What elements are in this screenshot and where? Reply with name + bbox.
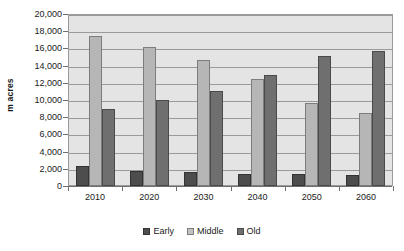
y-axis-tick-label: 10,000	[34, 95, 62, 105]
x-axis-tickmark	[393, 186, 394, 191]
y-axis-tick-label: 0	[57, 181, 62, 191]
x-axis-tickmark	[285, 186, 286, 191]
y-axis-tickmark	[63, 186, 68, 187]
y-axis-tickmark	[63, 169, 68, 170]
x-axis-tick-labels: 201020202030204020502060	[68, 192, 393, 208]
x-axis-tickmark	[339, 186, 340, 191]
plot-area	[68, 14, 393, 186]
y-axis-tick-label: 20,000	[34, 9, 62, 19]
y-axis-tick-label: 4,000	[39, 147, 62, 157]
y-axis-tick-label: 6,000	[39, 129, 62, 139]
legend-swatch-early	[143, 228, 150, 235]
legend-item[interactable]: Middle	[187, 226, 224, 236]
x-axis-tickmark	[68, 186, 69, 191]
x-axis-tickmark	[176, 186, 177, 191]
gridline	[69, 15, 392, 16]
x-axis-tickmark	[122, 186, 123, 191]
x-axis-tick-label: 2030	[176, 192, 230, 208]
legend-item-label: Middle	[197, 226, 224, 236]
y-axis-tickmark	[63, 83, 68, 84]
gridline	[69, 32, 392, 33]
x-axis-tickmark	[231, 186, 232, 191]
legend-item[interactable]: Old	[237, 226, 261, 236]
y-axis-tick-label: 12,000	[34, 78, 62, 88]
y-axis-tick-label: 8,000	[39, 112, 62, 122]
gridline	[69, 67, 392, 68]
x-axis-tick-label: 2050	[285, 192, 339, 208]
y-axis-tickmark	[63, 66, 68, 67]
legend-swatch-old	[237, 228, 244, 235]
y-axis-tick-label: 16,000	[34, 43, 62, 53]
legend-swatch-middle	[187, 228, 194, 235]
y-axis-tickmark	[63, 48, 68, 49]
x-axis-tick-label: 2060	[339, 192, 393, 208]
y-axis-tickmark	[63, 152, 68, 153]
gridline	[69, 153, 392, 154]
y-axis-tickmark	[63, 31, 68, 32]
y-axis-tick-label: 2,000	[39, 164, 62, 174]
bar-chart: m acres 20,00018,00016,00014,00012,00010…	[0, 0, 404, 251]
chart-legend: EarlyMiddleOld	[0, 226, 404, 236]
legend-item-label: Early	[153, 226, 174, 236]
y-axis-tick-label: 18,000	[34, 26, 62, 36]
gridline	[69, 118, 392, 119]
x-axis-tick-label: 2020	[122, 192, 176, 208]
legend-item-label: Old	[247, 226, 261, 236]
gridline	[69, 170, 392, 171]
y-axis-tick-label: 14,000	[34, 61, 62, 71]
y-axis-tickmark	[63, 117, 68, 118]
y-axis-tickmark	[63, 134, 68, 135]
y-axis-tickmark	[63, 100, 68, 101]
gridline	[69, 101, 392, 102]
x-axis-tickmarks	[68, 186, 393, 191]
gridline	[69, 49, 392, 50]
y-axis-tickmark	[63, 14, 68, 15]
y-axis-tick-labels: 20,00018,00016,00014,00012,00010,0008,00…	[16, 14, 66, 186]
gridline	[69, 84, 392, 85]
legend-item[interactable]: Early	[143, 226, 174, 236]
x-axis-tick-label: 2040	[231, 192, 285, 208]
x-axis-tick-label: 2010	[68, 192, 122, 208]
gridline	[69, 135, 392, 136]
y-axis-title-text: m acres	[5, 78, 15, 112]
